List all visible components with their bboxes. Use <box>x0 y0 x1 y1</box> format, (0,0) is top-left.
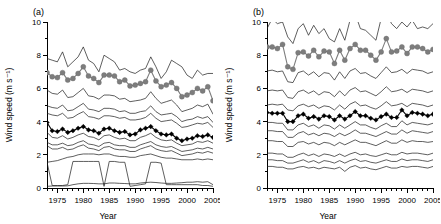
data-point-marker <box>128 83 133 88</box>
series-line-percentile-65 <box>267 87 433 99</box>
data-point-marker <box>169 80 174 85</box>
panel-a-plot: (a) 02468101975198019851990199520002005 … <box>0 0 220 224</box>
data-point-marker <box>379 49 384 54</box>
y-tick-label: 0 <box>257 184 262 193</box>
data-point-marker <box>373 58 378 63</box>
panel-a-axes <box>43 22 213 193</box>
y-tick-label: 2 <box>257 151 262 160</box>
data-point-marker <box>410 44 415 49</box>
data-point-marker <box>50 74 55 79</box>
panel-b-plot: (b) 02468101975198019851990199520002005 … <box>220 0 440 224</box>
panel-b: (b) 02468101975198019851990199520002005 … <box>220 0 440 224</box>
data-point-marker <box>431 47 436 52</box>
data-point-marker <box>45 70 50 75</box>
series-line-percentile-10 <box>47 154 213 162</box>
data-point-marker <box>65 78 70 83</box>
data-point-marker <box>358 48 363 53</box>
data-point-marker <box>431 112 436 117</box>
data-point-marker <box>190 136 195 141</box>
data-point-marker <box>107 73 112 78</box>
x-tick-label: 1990 <box>126 196 144 205</box>
data-point-marker <box>200 134 205 139</box>
data-point-marker <box>55 75 60 80</box>
data-point-marker <box>363 48 368 53</box>
data-point-marker <box>311 114 316 119</box>
x-tick-label: 2005 <box>424 196 440 205</box>
data-point-marker <box>211 135 216 140</box>
data-point-marker <box>138 81 143 86</box>
data-point-marker <box>76 71 81 76</box>
data-point-marker <box>337 48 342 53</box>
data-point-marker <box>265 110 270 115</box>
data-point-marker <box>368 116 373 121</box>
data-point-marker <box>55 129 60 134</box>
data-point-marker <box>185 137 190 142</box>
series-line-maximum <box>267 12 433 44</box>
panel-a-tag: (a) <box>33 7 44 17</box>
data-point-marker <box>179 94 184 99</box>
data-point-marker <box>399 44 404 49</box>
panel-a-ylabel: Wind speed (m s⁻¹) <box>4 68 14 143</box>
series-line-minimum <box>267 159 433 163</box>
data-point-marker <box>205 84 210 89</box>
data-point-marker <box>415 111 420 116</box>
data-point-marker <box>415 44 420 49</box>
y-tick-label: 8 <box>257 51 262 60</box>
x-tick-label: 1995 <box>152 196 170 205</box>
data-point-marker <box>285 64 290 69</box>
data-point-marker <box>280 42 285 47</box>
data-point-marker <box>389 49 394 54</box>
data-point-marker <box>353 42 358 47</box>
data-point-marker <box>143 79 148 84</box>
data-point-marker <box>420 112 425 117</box>
data-point-marker <box>91 128 96 133</box>
series-line-maximum <box>47 47 213 79</box>
data-point-marker <box>174 86 179 91</box>
x-tick-label: 2000 <box>178 196 196 205</box>
y-tick-label: 4 <box>257 118 262 127</box>
data-point-marker <box>102 73 107 78</box>
panel-a-xlabel: Year <box>99 211 116 221</box>
data-point-marker <box>60 70 65 75</box>
data-point-marker <box>91 76 96 81</box>
series-line-percentile-30 <box>267 130 433 137</box>
data-point-marker <box>363 113 368 118</box>
y-tick-label: 2 <box>37 151 42 160</box>
data-point-marker <box>306 54 311 59</box>
data-point-marker <box>206 133 211 138</box>
panel-a-series-group <box>45 47 216 186</box>
y-tick-label: 8 <box>37 51 42 60</box>
data-point-marker <box>133 83 138 88</box>
data-point-marker <box>425 49 430 54</box>
data-point-marker <box>348 46 353 51</box>
axis-lines <box>47 22 213 188</box>
figure-two-panel-wind-speed: (a) 02468101975198019851990199520002005 … <box>0 0 441 224</box>
data-point-marker <box>107 126 112 131</box>
data-point-marker <box>70 76 75 81</box>
data-point-marker <box>164 133 169 138</box>
data-point-marker <box>368 53 373 58</box>
series-line-percentile-10 <box>267 152 433 157</box>
data-point-marker <box>76 126 81 131</box>
data-point-marker <box>211 98 216 103</box>
data-point-marker <box>200 88 205 93</box>
data-point-marker <box>185 93 190 98</box>
panel-b-series-group <box>265 12 436 171</box>
data-point-marker <box>322 49 327 54</box>
data-point-marker <box>122 78 127 83</box>
data-point-marker <box>71 128 76 133</box>
series-clip-group <box>45 47 216 186</box>
data-point-marker <box>342 58 347 63</box>
series-line-percentile-30 <box>47 141 213 152</box>
data-point-marker <box>148 68 153 73</box>
series-line-minimum <box>47 161 213 186</box>
x-tick-label: 1985 <box>320 196 338 205</box>
series-clip-group <box>265 12 436 171</box>
x-tick-label: 1980 <box>74 196 92 205</box>
data-point-marker <box>296 50 301 55</box>
panel-b-ylabel: Wind speed (m s⁻¹) <box>224 68 234 143</box>
data-point-marker <box>112 73 117 78</box>
y-tick-label: 6 <box>257 84 262 93</box>
x-tick-label: 1980 <box>294 196 312 205</box>
series-line-percentile-60 <box>267 102 433 111</box>
